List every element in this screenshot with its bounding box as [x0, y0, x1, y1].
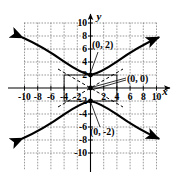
leader-lines	[91, 52, 127, 127]
leader-vertex-top	[91, 52, 99, 73]
x-tick-label: 2	[101, 91, 106, 102]
x-tick-label: -8	[34, 91, 42, 102]
y-tick-label: 2	[82, 69, 87, 80]
x-tick-label: -6	[47, 91, 55, 102]
label-vertex-top: (0, 2)	[92, 39, 113, 51]
y-tick-label: -4	[79, 108, 87, 119]
y-tick-label: -6	[79, 121, 87, 132]
y-tick-label: -10	[74, 147, 87, 158]
x-tick-label: 8	[141, 91, 146, 102]
label-center: (0, 0)	[127, 73, 148, 85]
x-tick-label: 4	[115, 91, 120, 102]
y-tick-label: -2	[79, 95, 87, 106]
point-center	[88, 86, 93, 91]
y-tick-label: 8	[82, 30, 87, 41]
y-axis-label: y	[95, 10, 102, 22]
point-vertex-bottom	[88, 99, 93, 104]
hyperbola-graph-figure: -10 -8 -6 -4 -2 2 4 6 8 10 10 8 6 4 2 -2…	[0, 0, 181, 180]
point-vertex-top	[88, 73, 93, 78]
y-tick-label: 6	[82, 43, 87, 54]
x-tick-label: 6	[128, 91, 133, 102]
x-tick-label: 10	[152, 91, 162, 102]
x-tick-label: -4	[60, 91, 68, 102]
leader-vertex-bottom	[91, 103, 100, 127]
label-vertex-bottom: (0, -2)	[90, 126, 114, 138]
y-tick-label: 4	[82, 56, 87, 67]
marked-points	[88, 73, 93, 104]
y-tick-label: -8	[79, 134, 87, 145]
x-axis-label: x	[161, 85, 168, 97]
graph-canvas: -10 -8 -6 -4 -2 2 4 6 8 10 10 8 6 4 2 -2…	[0, 0, 181, 180]
x-tick-label: -10	[18, 91, 31, 102]
leader-center-a	[93, 78, 126, 87]
y-tick-label: 10	[77, 17, 87, 28]
